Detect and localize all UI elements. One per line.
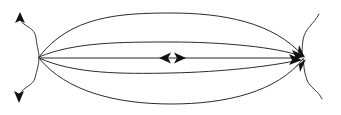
left-separatrix-wavy xyxy=(20,20,39,57)
arrow-down-left-icon xyxy=(14,91,24,103)
arc-outer-bottom xyxy=(39,58,303,104)
field-line-canvas xyxy=(0,0,341,115)
left-separatrix-group xyxy=(20,20,39,94)
arrow-up-left-icon xyxy=(15,12,25,23)
right-separatrix-wavy-upper xyxy=(302,14,319,57)
right-separatrix-wavy-lower xyxy=(303,58,322,99)
arc-outer-top xyxy=(39,13,303,57)
arc-inner-top xyxy=(39,42,301,57)
right-separatrix-group xyxy=(302,14,322,99)
field-line-group xyxy=(39,13,303,104)
left-separatrix-wavy-lower xyxy=(20,58,39,94)
field-line-diagram: Converging field line diagram Lens-shape… xyxy=(0,0,341,115)
